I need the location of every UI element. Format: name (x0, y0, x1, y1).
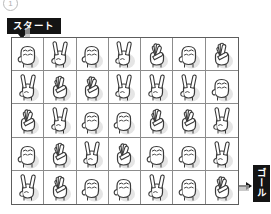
maze-cell-r1c1[interactable] (12, 38, 44, 71)
hand-scissors-icon (109, 39, 139, 69)
hand-scissors-icon (13, 72, 43, 102)
puzzle-figure: 1 スタート ゴール (0, 0, 271, 214)
maze-cell-r5c5[interactable] (141, 171, 173, 204)
maze-cell-r3c1[interactable] (12, 104, 44, 137)
maze-cell-r5c1[interactable] (12, 171, 44, 204)
maze-grid (11, 37, 239, 205)
hand-rock-icon (142, 139, 172, 169)
maze-cell-r2c7[interactable] (206, 71, 238, 104)
hand-paper-icon (13, 105, 43, 135)
maze-cell-r5c7[interactable] (206, 171, 238, 204)
hand-scissors-icon (207, 139, 237, 169)
maze-cell-r5c6[interactable] (173, 171, 205, 204)
maze-cell-r2c5[interactable] (141, 71, 173, 104)
hand-rock-icon (207, 72, 237, 102)
hand-scissors-icon (109, 72, 139, 102)
hand-rock-icon (109, 105, 139, 135)
maze-cell-r1c3[interactable] (77, 38, 109, 71)
maze-cell-r2c1[interactable] (12, 71, 44, 104)
maze-cell-r2c2[interactable] (44, 71, 76, 104)
hand-paper-icon (45, 72, 75, 102)
maze-cell-r4c6[interactable] (173, 138, 205, 171)
start-label: スタート (7, 18, 61, 34)
maze-cell-r4c1[interactable] (12, 138, 44, 171)
maze-cell-r4c3[interactable] (77, 138, 109, 171)
hand-scissors-icon (207, 105, 237, 135)
maze-cell-r1c5[interactable] (141, 38, 173, 71)
hand-paper-icon (207, 172, 237, 202)
maze-cell-r3c3[interactable] (77, 104, 109, 137)
hand-rock-icon (13, 139, 43, 169)
maze-cell-r4c7[interactable] (206, 138, 238, 171)
hand-rock-icon (77, 39, 107, 69)
maze-cell-r5c3[interactable] (77, 171, 109, 204)
maze-cell-r3c6[interactable] (173, 104, 205, 137)
hand-rock-icon (13, 39, 43, 69)
hand-rock-icon (77, 105, 107, 135)
hand-paper-icon (45, 139, 75, 169)
hand-scissors-icon (13, 172, 43, 202)
hand-scissors-icon (142, 172, 172, 202)
hand-rock-icon (77, 172, 107, 202)
maze-cell-r1c7[interactable] (206, 38, 238, 71)
hand-paper-icon (207, 39, 237, 69)
hand-paper-icon (174, 105, 204, 135)
maze-cell-r3c2[interactable] (44, 104, 76, 137)
maze-cell-r5c4[interactable] (109, 171, 141, 204)
maze-cell-r4c2[interactable] (44, 138, 76, 171)
maze-cell-r2c3[interactable] (77, 71, 109, 104)
hand-rock-icon (174, 172, 204, 202)
maze-grid-wrap (11, 37, 239, 205)
hand-scissors-icon (77, 139, 107, 169)
maze-cell-r4c4[interactable] (109, 138, 141, 171)
hand-scissors-icon (142, 72, 172, 102)
maze-cell-r5c2[interactable] (44, 171, 76, 204)
maze-cell-r2c4[interactable] (109, 71, 141, 104)
maze-cell-r3c4[interactable] (109, 104, 141, 137)
hand-scissors-icon (45, 39, 75, 69)
maze-cell-r1c2[interactable] (44, 38, 76, 71)
maze-cell-r3c5[interactable] (141, 104, 173, 137)
hand-scissors-icon (45, 105, 75, 135)
maze-cell-r1c4[interactable] (109, 38, 141, 71)
hand-rock-icon (109, 172, 139, 202)
goal-label: ゴール (253, 165, 270, 202)
hand-paper-icon (142, 105, 172, 135)
hand-rock-icon (174, 39, 204, 69)
maze-cell-r4c5[interactable] (141, 138, 173, 171)
hand-rock-icon (174, 139, 204, 169)
hand-paper-icon (142, 39, 172, 69)
hand-paper-icon (109, 139, 139, 169)
maze-cell-r1c6[interactable] (173, 38, 205, 71)
maze-cell-r3c7[interactable] (206, 104, 238, 137)
hand-paper-icon (45, 172, 75, 202)
hand-paper-icon (77, 72, 107, 102)
hand-scissors-icon (174, 72, 204, 102)
figure-number-marker: 1 (3, 0, 18, 11)
maze-cell-r2c6[interactable] (173, 71, 205, 104)
